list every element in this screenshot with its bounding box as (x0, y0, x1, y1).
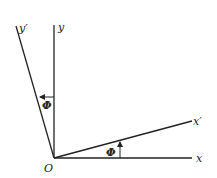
x-label: x (196, 152, 203, 165)
phi-label-x: Φ (106, 146, 116, 159)
phi-label-y: Φ (42, 99, 52, 112)
y-prime-axis (16, 26, 54, 158)
origin-label: O (44, 162, 53, 175)
rotated-axes-diagram: y′ y x′ x O Φ Φ (0, 0, 217, 178)
y-prime-label: y′ (18, 22, 28, 35)
x-prime-axis (54, 121, 192, 158)
y-label: y (57, 21, 65, 34)
x-prime-label: x′ (193, 115, 202, 128)
